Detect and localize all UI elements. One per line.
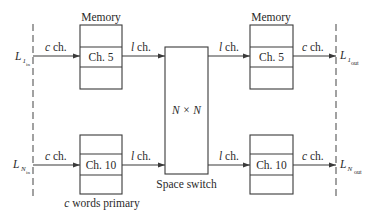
memory-top-left: Ch. 5 bbox=[80, 25, 122, 89]
memory-slot-label: Ch. 10 bbox=[86, 159, 117, 171]
memory-slot-label: Ch. 10 bbox=[256, 159, 287, 171]
svg-text:L: L bbox=[14, 50, 21, 62]
tst-switch-diagram: L 1 in L N in L 1 out L N out Memory Mem… bbox=[0, 0, 372, 217]
memory-label-left: Memory bbox=[81, 11, 121, 24]
svg-text:in: in bbox=[26, 62, 30, 67]
svg-text:N: N bbox=[347, 165, 353, 173]
memory-label-right: Memory bbox=[251, 11, 291, 24]
link-label-mid-right-top: l ch. bbox=[219, 41, 239, 53]
memory-bottom-left: Ch. 10 bbox=[80, 135, 122, 194]
input-line-1-label: L 1 in bbox=[14, 50, 30, 67]
output-line-1-label: L 1 out bbox=[339, 49, 359, 66]
output-line-N-label: L N out bbox=[339, 158, 362, 175]
memory-caption: c words primary bbox=[64, 197, 140, 210]
svg-text:L: L bbox=[12, 158, 19, 170]
svg-text:out: out bbox=[354, 169, 362, 175]
svg-text:out: out bbox=[351, 60, 359, 66]
svg-text:L: L bbox=[339, 49, 346, 61]
memory-slot-label: Ch. 5 bbox=[89, 51, 114, 63]
input-line-N-label: L N in bbox=[12, 158, 30, 175]
memory-bottom-right: Ch. 10 bbox=[250, 135, 293, 194]
link-label-mid-left-top: l ch. bbox=[131, 41, 151, 53]
space-switch-size-label: N × N bbox=[171, 104, 202, 116]
link-label-in-top: c ch. bbox=[45, 41, 67, 53]
link-label-out-top: c ch. bbox=[302, 41, 324, 53]
link-label-out-bottom: c ch. bbox=[302, 150, 324, 162]
memory-top-right: Ch. 5 bbox=[250, 25, 293, 89]
space-switch-caption: Space switch bbox=[156, 178, 217, 191]
svg-text:L: L bbox=[339, 158, 346, 170]
link-label-mid-left-bottom: l ch. bbox=[131, 150, 151, 162]
link-label-mid-right-bottom: l ch. bbox=[219, 150, 239, 162]
memory-slot-label: Ch. 5 bbox=[259, 51, 284, 63]
link-label-in-bottom: c ch. bbox=[45, 150, 67, 162]
space-switch: N × N bbox=[165, 47, 208, 174]
svg-text:in: in bbox=[26, 170, 30, 175]
